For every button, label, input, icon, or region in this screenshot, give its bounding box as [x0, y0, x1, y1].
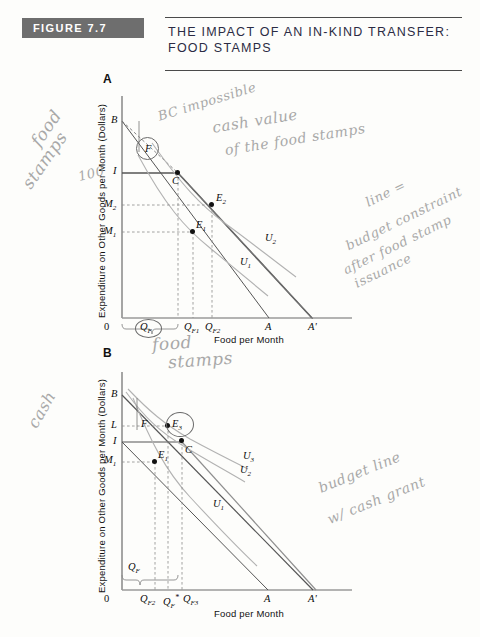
panel-b-qf-bracket [122, 575, 178, 585]
figure-page: FIGURE 7.7 The Impact of an In-Kind Tran… [0, 0, 480, 637]
panel-b-tick-aprime: A' [308, 593, 317, 604]
panel-b-curve-u1 [133, 398, 257, 566]
panel-b-circle-e3 [166, 412, 194, 437]
panel-b-label-l: L [111, 419, 117, 430]
panel-b-label-u1: U1 [213, 498, 224, 512]
panel-b-tick-a: A [264, 593, 270, 604]
panel-b-point-e1-dot [152, 459, 157, 464]
panel-b-label-i: I [113, 435, 117, 446]
panel-b-label-b: B [111, 388, 117, 399]
panel-b-label-m1: M1 [104, 454, 116, 468]
panel-b-origin-label: 0 [104, 593, 109, 604]
panel-b-label-u3: U3 [243, 450, 254, 464]
panel-b-point-c-dot [179, 438, 184, 443]
panel-b-label-u2: U2 [240, 464, 251, 478]
panel-b-bracket-label-qf: QF [128, 561, 140, 575]
panel-b-tick-qf2: QF2 [140, 593, 155, 607]
panel-b-label-c: C [185, 444, 192, 455]
panel-b-label-f: F [141, 418, 147, 429]
panel-b-label-e1: E1 [158, 449, 168, 463]
panel-b-tick-qfstar: QF* [163, 593, 179, 610]
panel-b-budget-line-cash [122, 395, 313, 590]
panel-b-tick-qf3: QF3 [183, 593, 198, 607]
